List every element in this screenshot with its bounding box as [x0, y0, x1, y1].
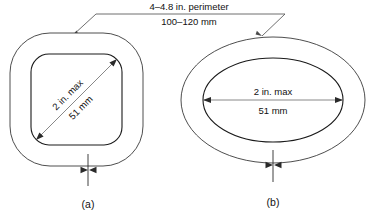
figure-a-group: 2 in. max 51 mm (a) — [10, 33, 143, 210]
diagram-canvas: 4–4.8 in. perimeter 100–120 mm 2 in. max… — [0, 0, 378, 217]
perimeter-label-inches: 4–4.8 in. perimeter — [149, 1, 228, 12]
figure-b-group: 2 in. max 51 mm (b) — [181, 37, 365, 208]
figure-b-dimension-label-millimeters: 51 mm — [258, 105, 287, 116]
figure-a-caption: (a) — [82, 198, 95, 210]
figure-b-dimension-label-inches: 2 in. max — [254, 86, 293, 97]
figure-b-caption: (b) — [267, 196, 280, 208]
figure-a-thickness-arrow-right — [89, 167, 97, 173]
figure-a-thickness-arrow-left — [81, 167, 89, 173]
perimeter-leader-right — [262, 14, 285, 36]
perimeter-label-millimeters: 100–120 mm — [161, 16, 217, 27]
technical-diagram-figure: 4–4.8 in. perimeter 100–120 mm 2 in. max… — [0, 0, 378, 217]
perimeter-arrowhead-right — [256, 31, 262, 36]
